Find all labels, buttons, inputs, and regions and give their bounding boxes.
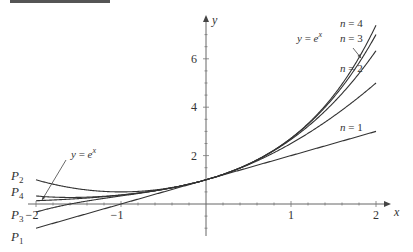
polynomial-label-P3: P3	[10, 207, 24, 224]
y-tick-label: 2	[191, 149, 197, 163]
y-tick-label: 6	[191, 52, 197, 66]
polynomial-label-P1: P1	[10, 229, 23, 246]
x-axis-arrow	[384, 201, 391, 207]
polynomial-label-P4: P4	[10, 184, 24, 201]
polynomial-label-P2: P2	[10, 168, 23, 185]
annotation-pointer	[42, 160, 66, 200]
chart: −2−112246xy n = 4n = 3n = 2n = 1y = exy …	[0, 0, 413, 252]
y-axis-label: y	[211, 13, 218, 27]
y-axis-arrow	[203, 15, 209, 22]
series-label: n = 4	[340, 17, 363, 29]
x-tick-label: −2	[26, 208, 39, 222]
x-tick-label: 1	[288, 208, 294, 222]
series-label: n = 1	[340, 121, 363, 133]
exp-annotation: y = ex	[296, 30, 323, 44]
x-tick-label: 2	[373, 208, 379, 222]
x-axis-label: x	[393, 205, 400, 219]
series-label: n = 3	[340, 32, 363, 44]
y-tick-label: 4	[191, 100, 197, 114]
x-tick-label: −1	[111, 208, 124, 222]
series-label: n = 2	[340, 62, 363, 74]
exp-annotation: y = ex	[70, 146, 97, 160]
